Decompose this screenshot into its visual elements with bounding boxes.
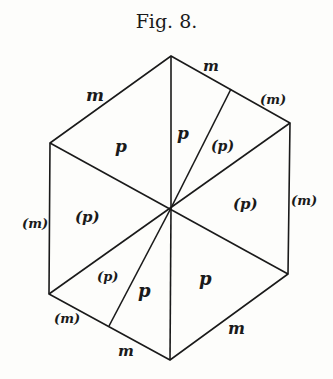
- face-label-bottom-center: p: [138, 280, 151, 301]
- edge-label-bottom-left-upper: (m): [54, 311, 80, 326]
- edge-label-left: (m): [22, 216, 48, 231]
- edge-label-top-right-lower: (m): [260, 92, 286, 107]
- edge-label-top-left: m: [86, 85, 104, 105]
- face-label-left: (p): [75, 208, 100, 226]
- face-label-top-right-sliver: (p): [211, 138, 234, 154]
- edge-label-top-right-upper: m: [203, 57, 219, 75]
- hexagon-diagram: m m (m) (m) m m (m) (m) p p (p) (p) (p) …: [0, 0, 333, 379]
- line-bottom-sliver: [109, 208, 171, 326]
- edge-label-bottom-right: m: [228, 319, 245, 338]
- edge-label-right: (m): [291, 193, 317, 208]
- face-label-bottom-right: p: [199, 268, 212, 289]
- face-label-bottom-left-sliver: (p): [97, 269, 118, 284]
- face-label-top-center: p: [177, 123, 189, 143]
- edge-label-bottom-left-lower: m: [118, 342, 134, 360]
- line-bottom: [170, 208, 171, 360]
- face-label-right: (p): [233, 195, 258, 213]
- face-label-upper-left: p: [115, 136, 127, 156]
